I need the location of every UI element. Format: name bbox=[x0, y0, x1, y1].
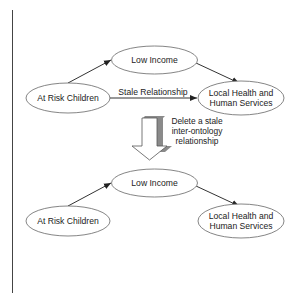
edge-atrisk-lowincome-after bbox=[68, 183, 111, 206]
node-at-risk-children-label: At Risk Children bbox=[37, 93, 99, 103]
diagram-canvas: Low Income At Risk Children Local Health… bbox=[0, 0, 292, 305]
node-low-income-after-label: Low Income bbox=[131, 178, 178, 188]
after-graph: Low Income At Risk Children Local Health… bbox=[26, 169, 284, 238]
svg-text:inter-ontology: inter-ontology bbox=[172, 126, 224, 136]
node-at-risk-children-after-label: At Risk Children bbox=[37, 216, 99, 226]
before-graph: Low Income At Risk Children Local Health… bbox=[26, 46, 284, 115]
node-local-health-after-label-1: Local Health and bbox=[209, 211, 274, 221]
edge-lowincome-lhhs bbox=[196, 63, 239, 83]
edge-atrisk-lowincome bbox=[68, 60, 111, 83]
node-local-health-label-2: Human Services bbox=[209, 98, 272, 108]
node-low-income-label: Low Income bbox=[131, 55, 178, 65]
edge-lowincome-lhhs-after bbox=[196, 186, 239, 206]
svg-text:relationship: relationship bbox=[176, 136, 219, 146]
node-local-health-label-1: Local Health and bbox=[209, 88, 274, 98]
stale-relationship-label: Stale Relationship bbox=[118, 87, 187, 97]
svg-text:Delete a stale: Delete a stale bbox=[171, 116, 223, 126]
node-local-health-after-label-2: Human Services bbox=[209, 221, 272, 231]
transition-note: Delete a stale inter-ontology relationsh… bbox=[171, 116, 223, 146]
down-arrow-icon bbox=[132, 116, 172, 160]
